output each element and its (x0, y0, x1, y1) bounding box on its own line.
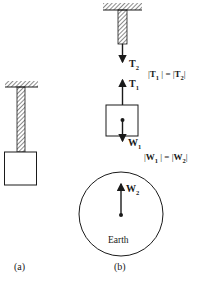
w1-label: W1 (128, 137, 141, 150)
t2-label: T2 (129, 58, 139, 71)
panel-a: (a) (5, 81, 39, 273)
hanging-block (5, 152, 37, 185)
rope (118, 10, 127, 44)
t1-label: T1 (129, 78, 139, 91)
caption-a: (a) (14, 261, 25, 273)
free-body-diagram: (a) T2 T1 |T1 | = |T2| W1 |W1 | = |W2| W… (0, 0, 212, 285)
panel-b: T2 T1 |T1 | = |T2| W1 |W1 | = |W2| W2 Ea… (79, 3, 188, 273)
weight-equation: |W1 | = |W2| (144, 152, 188, 164)
earth-label: Earth (108, 235, 129, 245)
rope (17, 87, 25, 152)
tension-equation: |T1 | = |T2| (148, 69, 186, 81)
ceiling-hatch (5, 81, 38, 87)
w2-label: W2 (126, 183, 139, 196)
ceiling-hatch (103, 3, 142, 10)
caption-b: (b) (114, 261, 126, 273)
